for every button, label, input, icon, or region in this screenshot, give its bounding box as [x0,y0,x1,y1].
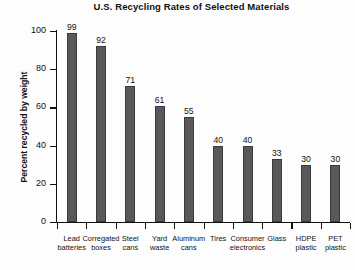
bar-value-label: 92 [81,35,121,45]
x-tick-mark [174,223,175,229]
y-tick-mark [50,222,57,223]
chart-title: U.S. Recycling Rates of Selected Materia… [0,1,355,12]
x-tick-mark [291,223,292,229]
bar-value-label: 99 [52,22,92,32]
y-tick-mark [50,107,57,108]
bar [243,146,253,222]
y-tick-label: 0 [6,216,46,226]
x-tick-mark [321,223,322,229]
y-tick-label: 40 [6,140,46,150]
bar [272,159,282,222]
category-label-line: cans [165,243,213,252]
y-tick-label: 20 [6,178,46,188]
y-tick-mark [50,184,57,185]
bar-value-label: 55 [169,106,209,116]
y-tick-label: 60 [6,101,46,111]
bar-value-label: 61 [140,95,180,105]
bar-chart: U.S. Recycling Rates of Selected Materia… [0,0,355,270]
bar [96,46,106,222]
category-label-line: electronics [224,243,272,252]
category-label-line: PET [311,234,355,243]
bar [155,106,165,223]
bar-value-label: 30 [315,154,355,164]
category-label-line: plastic [311,243,355,252]
bar [213,146,223,222]
x-tick-mark [233,223,234,229]
x-tick-mark [350,223,351,229]
y-tick-mark [50,146,57,147]
y-tick-mark [50,69,57,70]
bar [67,33,77,222]
x-tick-mark [204,223,205,229]
bar [330,165,340,222]
bar-value-label: 40 [228,135,268,145]
x-tick-mark [86,223,87,229]
category-label: PETplastic [311,234,355,252]
bar [184,117,194,222]
x-tick-mark [145,223,146,229]
y-tick-label: 80 [6,63,46,73]
bar-value-label: 71 [110,75,150,85]
x-tick-mark [116,223,117,229]
x-tick-mark [262,223,263,229]
bar [301,165,311,222]
bar [125,86,135,222]
y-tick-label: 100 [6,25,46,35]
x-tick-mark [57,223,58,229]
